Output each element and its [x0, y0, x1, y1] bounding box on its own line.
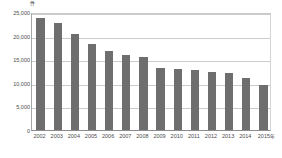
x-axis-tick-label: 2008	[134, 133, 151, 140]
bar[interactable]	[36, 18, 44, 130]
bar[interactable]	[242, 78, 250, 130]
bar[interactable]	[122, 55, 130, 130]
bar[interactable]	[208, 72, 216, 130]
bars-layer	[32, 14, 270, 130]
x-axis-tick-label: 2002	[31, 133, 48, 140]
y-axis-tick-label: 15,000	[1, 57, 30, 63]
x-axis-unit-suffix: 年	[270, 133, 275, 139]
y-axis-tick-labels: 25,00020,00015,00010,0005,0000	[0, 13, 30, 131]
x-axis-tick-label: 2009	[151, 133, 168, 140]
x-axis-tick-label: 2005	[82, 133, 99, 140]
bar-slot	[66, 14, 83, 130]
bar[interactable]	[139, 57, 147, 130]
bar-slot	[221, 14, 238, 130]
y-axis-tick-label: 5,000	[1, 104, 30, 110]
plot-area	[31, 13, 271, 131]
bar[interactable]	[225, 73, 233, 130]
y-axis-unit-label: 件	[30, 0, 35, 6]
bar-slot	[83, 14, 100, 130]
x-axis-tick-label: 2003	[48, 133, 65, 140]
bar[interactable]	[156, 68, 164, 130]
bar-slot	[169, 14, 186, 130]
bar-slot	[101, 14, 118, 130]
bar[interactable]	[88, 44, 96, 130]
bar[interactable]	[259, 85, 267, 130]
x-axis-tick-label: 2004	[65, 133, 82, 140]
bar-slot	[135, 14, 152, 130]
bar-slot	[152, 14, 169, 130]
x-axis-tick-label: 2015年	[254, 133, 279, 140]
y-axis-tick-label: 0	[1, 128, 30, 134]
bar-slot	[118, 14, 135, 130]
bar-slot	[255, 14, 272, 130]
x-axis-tick-label: 2006	[100, 133, 117, 140]
bar-chart: 件 25,00020,00015,00010,0005,0000 2002200…	[0, 0, 282, 158]
x-axis-tick-label: 2007	[117, 133, 134, 140]
bar[interactable]	[191, 70, 199, 130]
x-axis-tick-labels: 2002200320042005200620072008200920102011…	[31, 133, 271, 145]
bar[interactable]	[71, 34, 79, 130]
bar[interactable]	[105, 51, 113, 130]
x-axis-tick-label: 2014	[237, 133, 254, 140]
bar-slot	[238, 14, 255, 130]
x-axis-tick-label: 2010	[168, 133, 185, 140]
bar[interactable]	[54, 23, 62, 130]
bar-slot	[32, 14, 49, 130]
x-axis-tick-label: 2012	[202, 133, 219, 140]
bar[interactable]	[174, 69, 182, 130]
y-axis-tick-label: 25,000	[1, 10, 30, 16]
y-axis-tick-label: 20,000	[1, 34, 30, 40]
bar-slot	[203, 14, 220, 130]
y-axis-tick-label: 10,000	[1, 81, 30, 87]
x-axis-tick-label: 2013	[220, 133, 237, 140]
bar-slot	[186, 14, 203, 130]
bar-slot	[49, 14, 66, 130]
x-axis-tick-label: 2011	[185, 133, 202, 140]
